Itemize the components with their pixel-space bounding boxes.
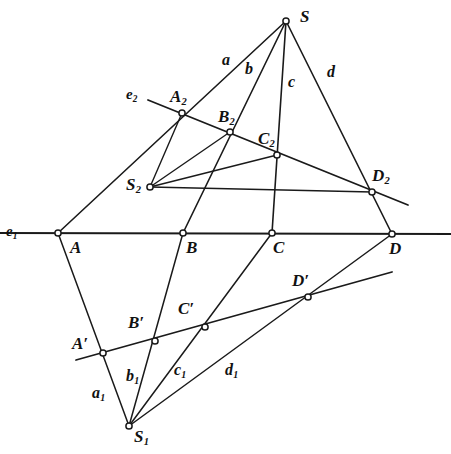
point-label-S1: S1 [134,428,149,447]
point-label-Bp: B′ [128,314,144,331]
axis-label-e2: e2 [126,87,138,104]
point-label-C: C [273,239,284,256]
ray-S2-to-C2 [150,155,277,187]
point-label-A2: A2 [170,88,187,107]
ray-d1-from-S1 [129,234,392,426]
ray-label-c1: c1 [174,362,186,380]
ray-label-b: b [245,61,253,77]
point-marker-S2 [147,184,153,190]
point-label-D: D [389,240,401,257]
ray-c-from-S [272,21,286,233]
geometry-figure: SA2B2C2D2S2ABCDA′B′C′D′S1abcda1b1c1d1e1e… [0,0,451,454]
point-marker-Dp [305,294,311,300]
point-label-C2: C2 [258,130,275,149]
ray-c1-from-S1 [129,233,272,426]
point-label-B2: B2 [218,108,235,127]
ray-label-c: c [288,74,295,90]
point-marker-B [180,230,186,236]
point-label-D2: D2 [372,167,390,186]
point-label-Ap: A′ [72,335,88,352]
point-marker-Ap [100,350,106,356]
point-marker-C2 [274,152,280,158]
ray-label-a1: a1 [92,385,105,403]
ray-label-d1: d1 [225,362,238,380]
point-marker-D2 [369,189,375,195]
diagram-canvas [0,0,451,454]
point-marker-S [283,18,289,24]
point-marker-Bp [152,338,158,344]
ray-label-a: a [222,52,230,68]
ray-S2-to-D2 [150,187,372,192]
point-marker-A2 [179,110,185,116]
point-label-Cp: C′ [178,300,194,317]
line-e1 [0,233,451,234]
point-label-B: B [186,239,197,256]
ray-d-from-S [286,21,392,234]
point-marker-B2 [227,129,233,135]
ray-label-b1: b1 [126,368,139,386]
ray-a-from-S [58,21,286,233]
axis-label-e1: e1 [6,224,18,241]
point-marker-S1 [126,423,132,429]
ray-label-d: d [327,64,335,80]
point-marker-A [55,230,61,236]
point-label-A: A [70,239,81,256]
point-label-Dp: D′ [292,272,309,289]
point-label-S2: S2 [126,176,141,195]
point-label-S: S [300,8,309,25]
point-marker-Cp [202,324,208,330]
point-marker-D [389,231,395,237]
point-marker-C [269,230,275,236]
